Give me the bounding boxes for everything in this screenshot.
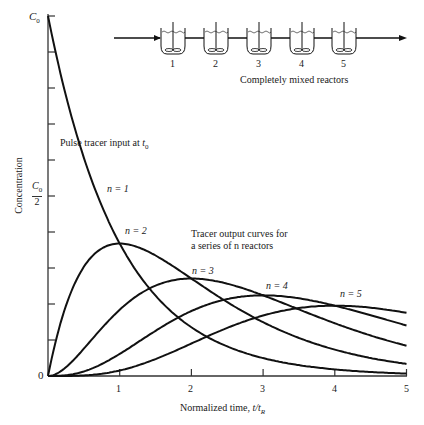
label-n3: n = 3 <box>192 265 214 276</box>
y-label-c0-half: C0 2 <box>32 181 42 207</box>
label-n4: n = 4 <box>266 280 288 291</box>
reactor-number-4: 4 <box>299 58 304 69</box>
curve-n1 <box>48 16 407 374</box>
reactor-number-5: 5 <box>341 58 346 69</box>
y-label-c0: C0 <box>29 10 40 25</box>
reactor-diagram <box>114 22 407 54</box>
x-tick-1: 1 <box>116 383 121 394</box>
curve-n5 <box>48 306 407 376</box>
x-tick-5: 5 <box>404 383 409 394</box>
y-axis-title: Concentration <box>13 146 24 226</box>
label-n1: n = 1 <box>107 183 129 194</box>
pulse-annotation: Pulse tracer input at t0 <box>60 137 148 151</box>
x-tick-2: 2 <box>188 383 193 394</box>
curves <box>48 16 407 376</box>
y-ticks <box>48 16 55 340</box>
x-tick-4: 4 <box>332 383 337 394</box>
y-label-zero: 0 <box>38 369 44 381</box>
label-n2: n = 2 <box>125 225 147 236</box>
label-n5: n = 5 <box>340 288 362 299</box>
reactor-number-1: 1 <box>170 58 175 69</box>
reactor-number-2: 2 <box>213 58 218 69</box>
curve-n4 <box>48 295 407 376</box>
x-axis-title: Normalized time, t/tR <box>180 402 265 416</box>
x-tick-3: 3 <box>260 383 265 394</box>
chart-canvas <box>0 0 424 425</box>
reactor-number-3: 3 <box>256 58 261 69</box>
tracer-annotation: Tracer output curves for a series of n r… <box>191 228 288 252</box>
reactors-caption: Completely mixed reactors <box>240 74 348 85</box>
